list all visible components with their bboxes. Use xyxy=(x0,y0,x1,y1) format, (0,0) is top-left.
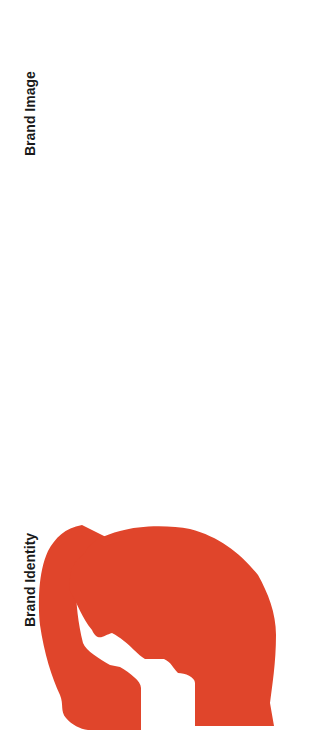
identity-head xyxy=(70,526,276,726)
brand-identity-to-image-diagram: Brand Identity Brand Image xyxy=(0,0,319,743)
head-shapes xyxy=(0,0,319,743)
